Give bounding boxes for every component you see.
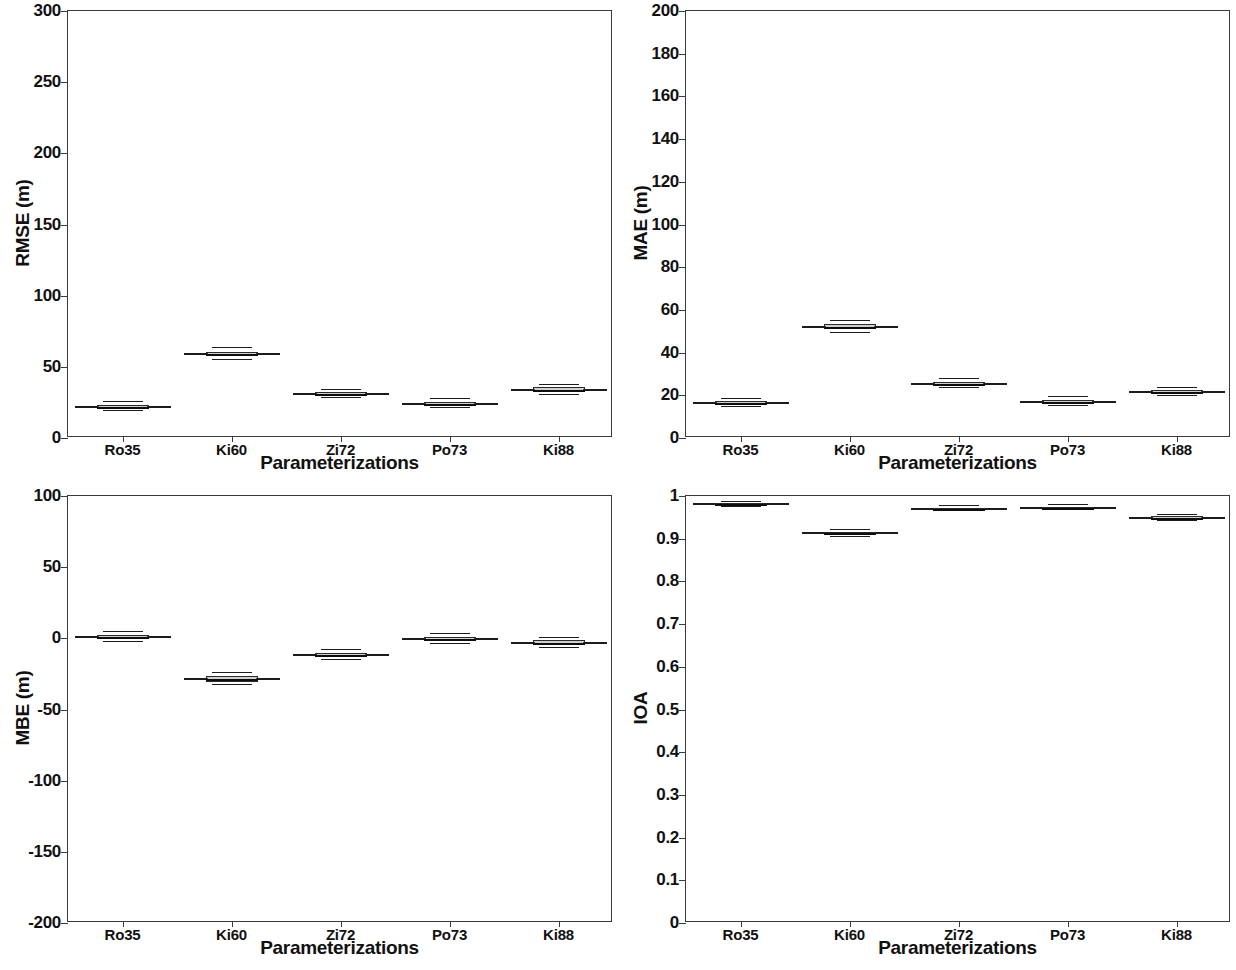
y-tick-label: 0.4 [656, 742, 679, 762]
y-tick-mark [679, 539, 686, 540]
figure-root: RMSE (m) 050100150200250300Ro35Ki60Zi72P… [0, 0, 1236, 970]
y-tick-mark [61, 225, 68, 226]
y-tick-mark [679, 710, 686, 711]
whisker-line-left [402, 403, 426, 405]
whisker-line-left [802, 532, 826, 534]
y-tick-label: 100 [34, 286, 61, 306]
whisker-line-left [911, 383, 935, 385]
whisker-cap-upper [430, 633, 470, 634]
whisker-line-right [1201, 517, 1225, 519]
plot-area-mbe: -200-150-100-50050100Ro35Ki60Zi72Po73Ki8… [67, 495, 612, 922]
y-tick-label: -200 [28, 913, 61, 933]
panel-rmse: RMSE (m) 050100150200250300Ro35Ki60Zi72P… [0, 0, 618, 485]
whisker-cap-lower [1157, 520, 1197, 521]
whisker-line-left [1129, 391, 1153, 393]
whisker-cap-lower [103, 410, 143, 411]
y-tick-mark [61, 638, 68, 639]
y-tick-mark [61, 367, 68, 368]
y-tick-mark [61, 82, 68, 83]
median-line [824, 533, 876, 535]
whisker-line-right [147, 636, 171, 638]
y-tick-mark [679, 624, 686, 625]
whisker-cap-lower [1048, 405, 1088, 406]
median-line [1151, 392, 1203, 394]
whisker-line-right [365, 393, 389, 395]
whisker-line-left [1129, 517, 1153, 519]
y-tick-label: 60 [661, 300, 679, 320]
whisker-line-right [874, 326, 898, 328]
y-tick-mark [679, 923, 686, 924]
y-tick-label: 0 [670, 913, 679, 933]
whisker-cap-upper [321, 649, 361, 650]
y-tick-mark [679, 11, 686, 12]
whisker-line-left [402, 638, 426, 640]
median-line [933, 384, 985, 386]
plot-area-ioa: 00.10.20.30.40.50.60.70.80.91Ro35Ki60Zi7… [685, 495, 1230, 922]
median-line [715, 403, 767, 405]
whisker-line-left [511, 389, 535, 391]
y-axis-title-ioa: IOA [629, 494, 651, 921]
y-tick-mark [61, 496, 68, 497]
whisker-cap-lower [430, 643, 470, 644]
whisker-cap-lower [321, 659, 361, 660]
whisker-line-left [293, 654, 317, 656]
whisker-cap-upper [939, 378, 979, 379]
whisker-cap-upper [212, 672, 252, 673]
median-line [533, 390, 585, 392]
y-tick-mark [679, 880, 686, 881]
whisker-line-right [365, 654, 389, 656]
y-tick-mark [679, 795, 686, 796]
whisker-cap-upper [721, 501, 761, 502]
whisker-cap-lower [430, 407, 470, 408]
x-axis-title-mae: Parameterizations [685, 452, 1230, 474]
x-axis-title-mbe: Parameterizations [67, 937, 612, 959]
y-tick-mark [679, 54, 686, 55]
whisker-cap-lower [721, 406, 761, 407]
y-tick-label: 20 [661, 385, 679, 405]
y-tick-label: 0 [52, 428, 61, 448]
panel-mbe: MBE (m) -200-150-100-50050100Ro35Ki60Zi7… [0, 485, 618, 970]
y-tick-label: 0.7 [656, 614, 679, 634]
y-tick-mark [61, 781, 68, 782]
whisker-line-left [184, 678, 208, 680]
whisker-line-left [75, 636, 99, 638]
median-line [206, 354, 258, 356]
y-tick-label: 0.3 [656, 785, 679, 805]
whisker-cap-upper [939, 505, 979, 506]
whisker-line-right [474, 403, 498, 405]
whisker-line-left [693, 402, 717, 404]
y-tick-label: 180 [652, 44, 679, 64]
y-tick-mark [679, 96, 686, 97]
y-tick-label: 160 [652, 86, 679, 106]
whisker-cap-lower [939, 387, 979, 388]
y-tick-label: 120 [652, 172, 679, 192]
y-tick-mark [61, 567, 68, 568]
whisker-line-right [983, 383, 1007, 385]
y-tick-mark [679, 496, 686, 497]
median-line [206, 679, 258, 681]
whisker-cap-lower [539, 647, 579, 648]
y-tick-label: -100 [28, 771, 61, 791]
median-line [97, 407, 149, 409]
y-tick-label: 0 [52, 628, 61, 648]
whisker-line-right [1201, 391, 1225, 393]
whisker-line-right [874, 532, 898, 534]
whisker-cap-upper [830, 529, 870, 530]
y-axis-title-mae: MAE (m) [629, 9, 651, 436]
y-tick-label: 0.9 [656, 529, 679, 549]
whisker-cap-lower [103, 641, 143, 642]
whisker-cap-lower [539, 394, 579, 395]
y-tick-label: 300 [34, 1, 61, 21]
whisker-line-left [511, 642, 535, 644]
y-tick-mark [61, 923, 68, 924]
y-tick-label: 0 [670, 428, 679, 448]
y-tick-mark [679, 182, 686, 183]
y-tick-mark [679, 225, 686, 226]
y-tick-label: -150 [28, 842, 61, 862]
median-line [424, 639, 476, 641]
median-line [1151, 518, 1203, 520]
whisker-cap-upper [103, 401, 143, 402]
whisker-cap-upper [103, 631, 143, 632]
y-tick-mark [61, 852, 68, 853]
y-axis-title-rmse: RMSE (m) [11, 9, 33, 436]
